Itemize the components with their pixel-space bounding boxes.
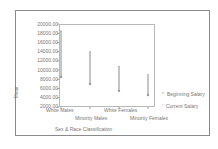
beginning-salary-marker (118, 90, 120, 92)
beginning-salary-marker (89, 83, 91, 85)
beginning-salary-marker (147, 94, 149, 96)
range-lines (0, 0, 218, 149)
beginning-salary-marker (60, 76, 62, 78)
caption-strip (15, 142, 210, 146)
